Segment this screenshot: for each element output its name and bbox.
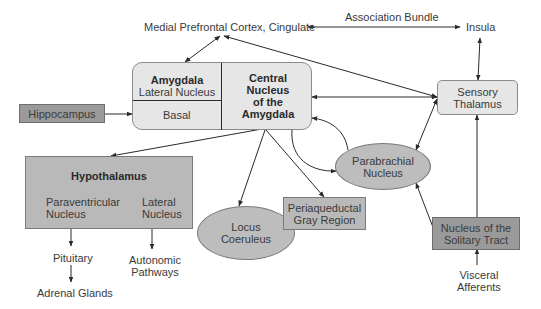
amygdala-basal-section: Basal [133,101,222,130]
association-bundle-label: Association Bundle [345,11,439,23]
central-line3: of the [223,96,313,108]
thalamus-line2: Thalamus [453,98,501,110]
autonomic-label: Autonomic Pathways [129,254,181,278]
pituitary-label: Pituitary [53,252,93,264]
sensory-thalamus-box: Sensory Thalamus [437,80,518,115]
visceral-afferents-label: Visceral Afferents [457,269,501,293]
hypothalamus-title: Hypothalamus [26,170,192,182]
basal-label: Basal [163,109,191,121]
paraventricular-label: Paraventricular Nucleus [46,196,120,220]
hippocampus-label: Hippocampus [28,108,95,120]
hypothalamus-box: Hypothalamus Paraventricular Nucleus Lat… [25,156,193,229]
periaqueductal-box: Periaqueductal Gray Region [283,197,366,230]
lateral-nucleus-label: Lateral Nucleus [133,86,221,98]
central-line1: Central [223,72,313,84]
amygdala-lateral-section: Amygdala Lateral Nucleus [133,63,222,101]
adrenal-label: Adrenal Glands [37,287,113,299]
central-line2: Nucleus [223,84,313,96]
thalamus-line1: Sensory [457,86,497,98]
amygdala-title: Amygdala [133,74,221,86]
amygdala-box: Amygdala Lateral Nucleus Basal Central N… [132,62,312,130]
locus-coeruleus-oval: Locus Coeruleus [197,206,295,260]
central-line4: Amygdala [223,108,313,120]
hippocampus-box: Hippocampus [19,104,105,123]
parabrachial-oval: Parabrachial Nucleus [335,143,431,190]
nts-box: Nucleus of the Solitary Tract [432,217,520,250]
medial-prefrontal-label: Medial Prefrontal Cortex, Cingulate [144,21,315,33]
insula-label: Insula [466,21,495,33]
central-nucleus-section: Central Nucleus of the Amygdala [223,72,313,120]
lateral-hypothalamus-label: Lateral Nucleus [142,196,182,220]
